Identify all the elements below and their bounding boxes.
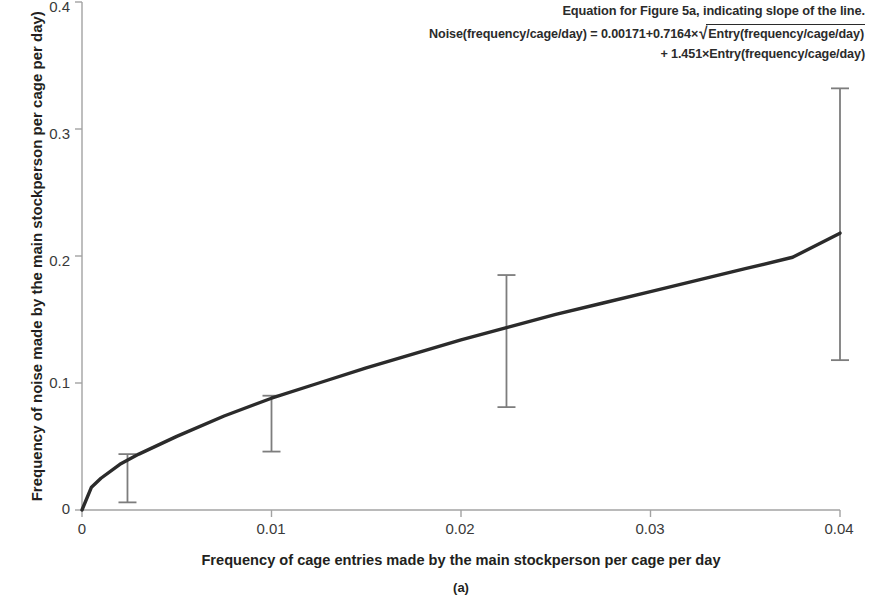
figure-caption: (a) <box>82 580 840 595</box>
x-axis-title: Frequency of cage entries made by the ma… <box>82 552 840 568</box>
error-bars <box>118 88 849 502</box>
figure-5a: Equation for Figure 5a, indicating slope… <box>0 0 869 606</box>
x-axis-ticks <box>82 510 840 517</box>
axes <box>82 2 840 510</box>
error-bar-2 <box>263 396 281 452</box>
fitted-curve <box>82 233 840 510</box>
error-bar-3 <box>497 275 515 407</box>
y-axis-ticks <box>75 2 82 510</box>
error-bar-4 <box>831 88 849 360</box>
plot-area <box>0 0 869 606</box>
